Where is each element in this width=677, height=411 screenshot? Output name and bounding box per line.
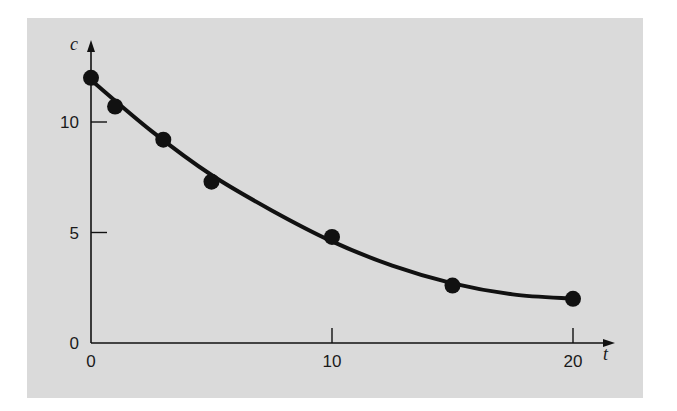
y-tick-label: 10 bbox=[60, 113, 79, 132]
axes: 010200510 bbox=[60, 40, 615, 371]
fit-curve-path bbox=[91, 80, 573, 299]
fit-curve bbox=[91, 80, 573, 299]
data-point bbox=[83, 70, 99, 86]
x-tick-label: 10 bbox=[323, 352, 342, 371]
y-tick-label: 0 bbox=[70, 334, 79, 353]
data-point bbox=[445, 278, 461, 294]
data-points bbox=[83, 70, 581, 307]
data-point bbox=[155, 132, 171, 148]
y-tick-label: 5 bbox=[70, 224, 79, 243]
chart-svg: 010200510 t c bbox=[0, 0, 677, 411]
x-tick-label: 0 bbox=[86, 352, 95, 371]
y-axis-label: c bbox=[70, 34, 78, 54]
data-point bbox=[107, 99, 123, 115]
data-point bbox=[204, 174, 220, 190]
y-axis-arrow-icon bbox=[87, 40, 95, 52]
x-tick-label: 20 bbox=[564, 352, 583, 371]
data-point bbox=[565, 291, 581, 307]
data-point bbox=[324, 229, 340, 245]
x-axis-label: t bbox=[603, 344, 609, 364]
